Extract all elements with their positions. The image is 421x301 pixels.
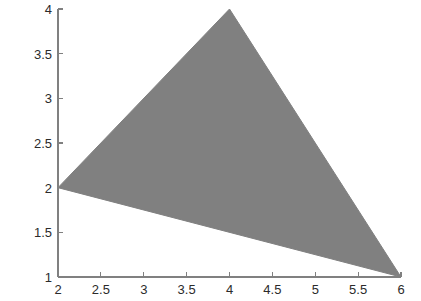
y-tick-label: 4 bbox=[45, 2, 52, 17]
x-tick-label: 5.5 bbox=[349, 282, 367, 297]
data-polygon-layer bbox=[58, 9, 401, 277]
x-tick-label: 3.5 bbox=[178, 282, 196, 297]
x-tick-label: 3 bbox=[140, 282, 147, 297]
x-tick-label: 4.5 bbox=[263, 282, 281, 297]
chart-figure: 11.522.533.54 22.533.544.555.56 bbox=[0, 0, 421, 301]
data-polygon-triangle bbox=[58, 9, 401, 277]
y-tick-label: 1.5 bbox=[34, 225, 52, 240]
x-tick-label: 2.5 bbox=[92, 282, 110, 297]
x-tick-label: 2 bbox=[54, 282, 61, 297]
plot-canvas bbox=[0, 0, 421, 301]
y-tick-label: 1 bbox=[45, 270, 52, 285]
x-tick-label: 6 bbox=[397, 282, 404, 297]
y-tick-label: 3 bbox=[45, 91, 52, 106]
x-tick-label: 4 bbox=[226, 282, 233, 297]
y-tick-label: 2.5 bbox=[34, 136, 52, 151]
y-tick-label: 2 bbox=[45, 180, 52, 195]
x-tick-label: 5 bbox=[312, 282, 319, 297]
y-tick-label: 3.5 bbox=[34, 46, 52, 61]
